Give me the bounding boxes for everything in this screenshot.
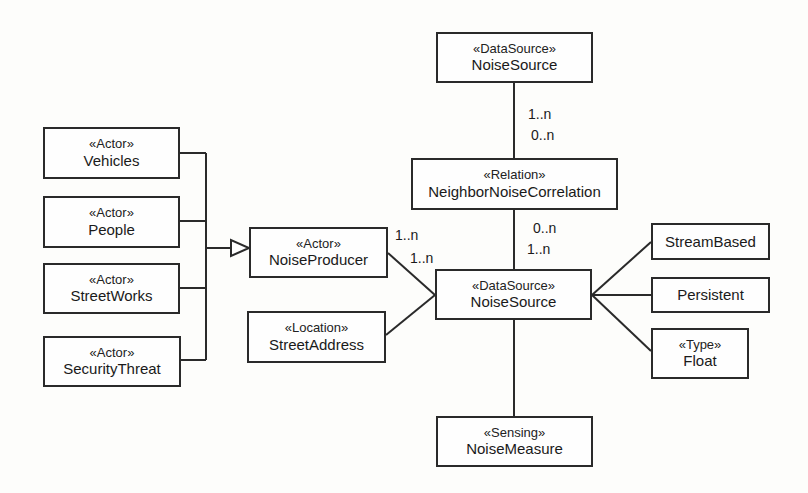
class-name: StreamBased bbox=[665, 233, 756, 251]
stereotype-label: «Actor» bbox=[89, 136, 134, 152]
class-name: NoiseSource bbox=[471, 293, 557, 311]
stereotype-label: «Type» bbox=[679, 337, 722, 353]
class-name: Persistent bbox=[677, 286, 744, 304]
class-float-type[interactable]: «Type» Float bbox=[651, 328, 749, 379]
class-people[interactable]: «Actor» People bbox=[43, 196, 180, 248]
edge-source-to-float bbox=[592, 295, 651, 351]
class-street-works[interactable]: «Actor» StreetWorks bbox=[43, 263, 180, 314]
stereotype-label: «Relation» bbox=[483, 167, 545, 183]
class-name: Vehicles bbox=[84, 152, 140, 170]
class-noise-measure[interactable]: «Sensing» NoiseMeasure bbox=[436, 416, 593, 467]
edge-source-to-streambased bbox=[592, 242, 651, 295]
uml-diagram-canvas: «DataSource» NoiseSource «Relation» Neig… bbox=[0, 0, 808, 493]
stereotype-label: «DataSource» bbox=[472, 278, 555, 294]
class-name: Float bbox=[683, 352, 716, 370]
class-name: NoiseProducer bbox=[269, 251, 368, 269]
class-name: StreetAddress bbox=[269, 336, 364, 354]
multiplicity-label: 1..n bbox=[395, 227, 418, 243]
class-name: SecurityThreat bbox=[63, 360, 161, 378]
edge-address-to-source bbox=[386, 295, 435, 335]
multiplicity-label: 0..n bbox=[533, 220, 556, 236]
stereotype-label: «Actor» bbox=[89, 205, 134, 221]
class-street-address[interactable]: «Location» StreetAddress bbox=[247, 311, 386, 363]
class-stream-based[interactable]: StreamBased bbox=[651, 223, 770, 260]
class-name: NoiseMeasure bbox=[466, 440, 563, 458]
class-name: NeighborNoiseCorrelation bbox=[428, 183, 601, 201]
class-name: StreetWorks bbox=[70, 287, 152, 305]
stereotype-label: «Sensing» bbox=[484, 425, 545, 441]
stereotype-label: «Actor» bbox=[90, 345, 135, 361]
class-neighbor-noise-correlation[interactable]: «Relation» NeighborNoiseCorrelation bbox=[411, 158, 618, 210]
multiplicity-label: 1..n bbox=[528, 106, 551, 122]
stereotype-label: «Actor» bbox=[89, 272, 134, 288]
class-noise-source-main[interactable]: «DataSource» NoiseSource bbox=[435, 269, 592, 320]
class-noise-producer[interactable]: «Actor» NoiseProducer bbox=[249, 227, 388, 278]
class-security-threat[interactable]: «Actor» SecurityThreat bbox=[43, 336, 181, 387]
stereotype-label: «DataSource» bbox=[473, 41, 556, 57]
multiplicity-label: 1..n bbox=[527, 241, 550, 257]
stereotype-label: «Actor» bbox=[296, 236, 341, 252]
multiplicity-label: 1..n bbox=[410, 250, 433, 266]
stereotype-label: «Location» bbox=[285, 320, 349, 336]
class-persistent[interactable]: Persistent bbox=[651, 277, 770, 313]
multiplicity-label: 0..n bbox=[531, 127, 554, 143]
class-noise-source-top[interactable]: «DataSource» NoiseSource bbox=[436, 32, 593, 83]
class-name: People bbox=[88, 221, 135, 239]
class-name: NoiseSource bbox=[472, 56, 558, 74]
class-vehicles[interactable]: «Actor» Vehicles bbox=[43, 127, 180, 179]
generalization-arrow-icon bbox=[231, 240, 249, 256]
